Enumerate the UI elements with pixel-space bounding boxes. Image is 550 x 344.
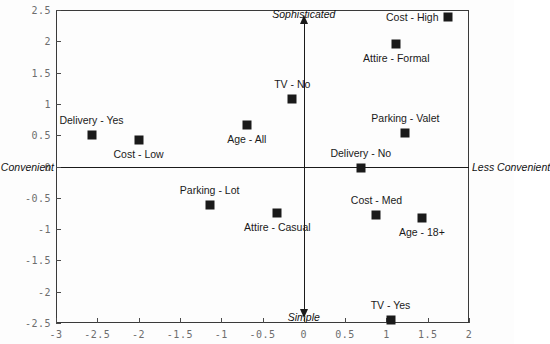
x-axis-tick	[221, 318, 222, 323]
data-point-marker	[87, 131, 96, 140]
data-point-marker	[273, 208, 282, 217]
x-axis-tick-label: 1	[383, 329, 390, 340]
y-axis-tick	[56, 167, 61, 168]
data-point-label: Attire - Casual	[244, 222, 311, 233]
data-point-label: Cost - Med	[351, 195, 402, 206]
data-point-marker	[372, 210, 381, 219]
y-axis-tick-label: 2.5	[8, 5, 51, 16]
y-axis-tick	[56, 292, 61, 293]
y-axis-tick-label: -1.5	[8, 255, 51, 266]
data-point-label: Delivery - Yes	[59, 115, 123, 126]
data-point-label: TV - Yes	[371, 300, 411, 311]
x-axis-tick	[428, 318, 429, 323]
data-point-label: Attire - Formal	[363, 53, 430, 64]
data-point-marker	[242, 121, 251, 130]
y-axis-tick	[56, 10, 61, 11]
y-axis-tick	[56, 41, 61, 42]
y-axis-tick	[56, 260, 61, 261]
x-axis-tick	[263, 318, 264, 323]
data-point-label: TV - No	[274, 79, 310, 90]
data-point-marker	[134, 136, 143, 145]
data-point-marker	[356, 163, 365, 172]
y-axis-tick	[56, 135, 61, 136]
axis-caption-less-convenient: Less Convenient	[472, 161, 550, 173]
x-axis-tick-label: -1.5	[167, 329, 193, 340]
data-point-marker	[401, 129, 410, 138]
data-point-label: Parking - Valet	[371, 113, 439, 124]
data-point-marker	[417, 213, 426, 222]
axis-caption-simple: Simple	[288, 311, 320, 323]
data-point-marker	[386, 315, 395, 324]
x-axis-tick	[180, 318, 181, 323]
y-axis-tick	[56, 73, 61, 74]
data-point-label: Delivery - No	[330, 148, 391, 159]
x-axis-tick	[97, 318, 98, 323]
axis-caption-sophisticated: Sophisticated	[272, 8, 335, 20]
data-point-marker	[392, 39, 401, 48]
data-point-marker	[443, 12, 452, 21]
data-point-marker	[205, 201, 214, 210]
data-point-label: Cost - High	[386, 11, 439, 22]
axis-caption-more-convenient: More Convenient	[0, 161, 54, 173]
x-axis-tick	[469, 318, 470, 323]
x-axis-tick	[139, 318, 140, 323]
y-axis-tick-label: 1.5	[8, 67, 51, 78]
y-axis-tick-label: 0.5	[8, 130, 51, 141]
data-point-label: Age - 18+	[399, 227, 445, 238]
x-axis-tick-label: 1.5	[418, 329, 438, 340]
x-axis-tick-label: -0.5	[249, 329, 275, 340]
x-axis-tick-label: 0.5	[335, 329, 355, 340]
data-point-marker	[288, 94, 297, 103]
x-axis-tick-label: -1	[215, 329, 228, 340]
y-axis-tick-label: -0.5	[8, 192, 51, 203]
y-axis-tick-label: -2.5	[8, 318, 51, 329]
x-axis-tick-label: 2	[466, 329, 473, 340]
y-axis-tick-label: -1	[8, 224, 51, 235]
y-axis-tick-label: 2	[8, 36, 51, 47]
data-point-label: Cost - Low	[114, 149, 164, 160]
x-axis-tick	[345, 318, 346, 323]
x-axis-tick-label: -3	[49, 329, 62, 340]
y-axis-tick	[56, 104, 61, 105]
x-axis-tick-label: 0	[301, 329, 308, 340]
x-axis-tick-label: -2	[132, 329, 145, 340]
y-axis-tick	[56, 229, 61, 230]
y-axis-tick-label: -2	[8, 286, 51, 297]
vertical-sophistication-axis	[304, 22, 305, 311]
y-axis-tick-label: 1	[8, 98, 51, 109]
x-axis-tick-label: -2.5	[84, 329, 110, 340]
data-point-label: Age - All	[227, 134, 266, 145]
y-axis-tick	[56, 198, 61, 199]
horizontal-convenience-axis	[56, 167, 469, 168]
y-axis-tick	[56, 323, 61, 324]
data-point-label: Parking - Lot	[180, 185, 240, 196]
